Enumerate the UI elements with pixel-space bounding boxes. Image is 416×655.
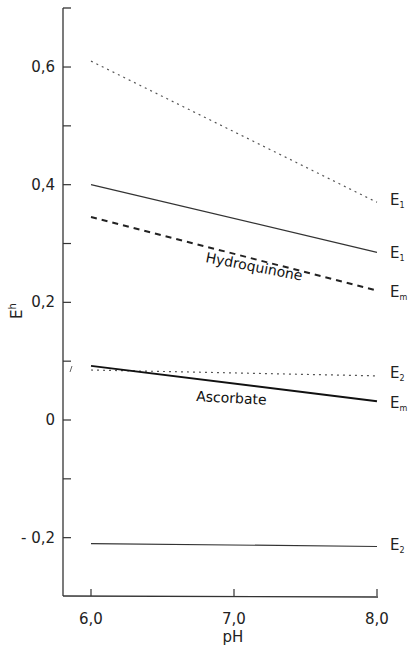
- y-tick-label: 0,6: [31, 58, 55, 76]
- series-line: [91, 544, 377, 547]
- y-tick-label: 0,4: [31, 176, 55, 194]
- stray-mark: [70, 366, 72, 372]
- series-end-label: Em: [390, 394, 407, 413]
- annotations: HydroquinoneAscorbate: [196, 249, 304, 407]
- hydroquinone-label: Hydroquinone: [204, 249, 304, 283]
- x-tick-label: 7,0: [222, 610, 246, 628]
- series-end-label: E1: [390, 244, 405, 263]
- x-axis-line: [63, 596, 378, 597]
- y-tick-label: - 0,2: [21, 529, 55, 547]
- y-axis-title: Eh: [7, 303, 26, 319]
- ascorbate-label: Ascorbate: [196, 388, 267, 408]
- series-lines: E1E1EmE2EmE2: [91, 61, 407, 555]
- series-line: [91, 61, 377, 202]
- axes: 0,60,40,20- 0,26,07,08,0pHEh: [7, 8, 389, 646]
- series-end-label: E1: [390, 191, 405, 210]
- chart: 0,60,40,20- 0,26,07,08,0pHEh E1E1EmE2EmE…: [0, 0, 416, 655]
- x-axis-title: pH: [223, 628, 244, 646]
- series-end-label: E2: [390, 536, 405, 555]
- x-tick-label: 8,0: [365, 610, 389, 628]
- series-end-label: Em: [390, 283, 407, 302]
- y-tick-label: 0,2: [31, 293, 55, 311]
- series-end-label: E2: [390, 364, 405, 383]
- y-tick-label: 0: [45, 411, 55, 429]
- series-line: [91, 185, 377, 253]
- x-tick-label: 6,0: [79, 610, 103, 628]
